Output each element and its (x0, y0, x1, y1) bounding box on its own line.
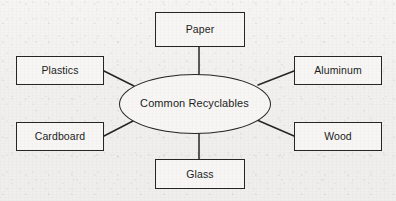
node-center-label: Common Recyclables (140, 98, 249, 109)
node-cardboard-label: Cardboard (35, 131, 86, 142)
node-paper-label: Paper (186, 24, 215, 35)
concept-map-page: Paper Aluminum Wood Glass Cardboard Plas… (0, 0, 396, 201)
node-cardboard[interactable]: Cardboard (16, 122, 104, 151)
node-wood[interactable]: Wood (294, 122, 382, 151)
node-glass-label: Glass (186, 169, 213, 180)
node-wood-label: Wood (324, 131, 352, 142)
node-plastics[interactable]: Plastics (16, 56, 104, 85)
node-glass[interactable]: Glass (155, 159, 245, 189)
connector-wood (257, 120, 294, 136)
node-aluminum[interactable]: Aluminum (294, 56, 382, 85)
node-paper[interactable]: Paper (155, 12, 245, 47)
node-center-common-recyclables[interactable]: Common Recyclables (119, 74, 271, 134)
connector-plastics (104, 71, 134, 86)
connector-aluminum (258, 71, 294, 85)
connector-cardboard (104, 121, 133, 136)
node-plastics-label: Plastics (42, 65, 79, 76)
node-aluminum-label: Aluminum (314, 65, 361, 76)
